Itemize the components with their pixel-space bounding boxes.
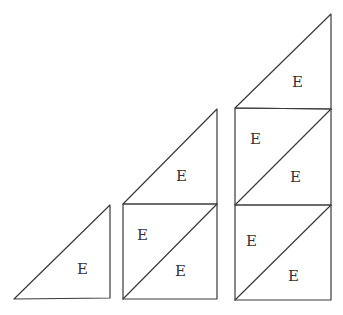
diagonal-lower (235, 205, 331, 300)
triangle-label: E (288, 267, 299, 285)
triangle-label: E (292, 73, 303, 91)
diagonal-upper (235, 109, 331, 205)
triangle-diagram: E E E E E E E E E (0, 0, 343, 315)
figure-2: E E E (123, 109, 217, 299)
triangle (14, 205, 110, 299)
triangle-top (235, 14, 331, 109)
triangle-label: E (176, 167, 187, 185)
diagonal (123, 204, 217, 299)
triangle-top (123, 109, 217, 204)
triangle-label: E (175, 262, 186, 280)
triangle-label: E (246, 232, 257, 250)
figure-1: E (14, 205, 110, 299)
figure-3: E E E E E (235, 14, 331, 300)
triangle-label: E (137, 226, 148, 244)
triangle-label: E (290, 168, 301, 186)
triangle-label: E (77, 260, 88, 278)
triangle-label: E (250, 130, 261, 148)
